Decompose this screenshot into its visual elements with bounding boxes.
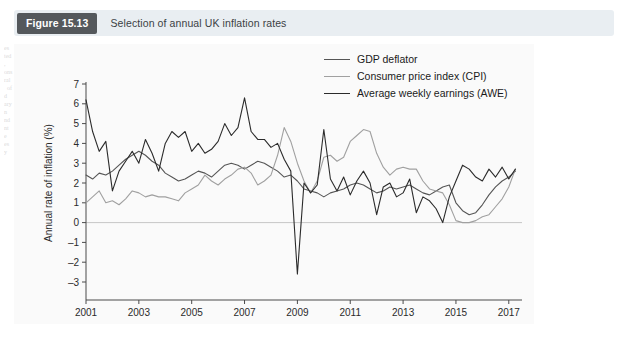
chart-panel: –3–2–10123456720012003200520072009201120… (14, 44, 614, 324)
svg-text:2011: 2011 (339, 307, 361, 318)
figure-caption-bar: Figure 15.13 Selection of annual UK infl… (14, 10, 614, 36)
svg-text:6: 6 (73, 98, 79, 109)
inflation-line-chart: –3–2–10123456720012003200520072009201120… (14, 44, 614, 324)
svg-text:2013: 2013 (392, 307, 415, 318)
svg-text:0: 0 (73, 217, 79, 228)
svg-text:2007: 2007 (233, 307, 256, 318)
svg-text:2017: 2017 (498, 307, 521, 318)
svg-text:7: 7 (73, 79, 79, 90)
svg-text:2: 2 (73, 178, 79, 189)
svg-text:5: 5 (73, 118, 79, 129)
legend-label-gdp-deflator: GDP deflator (357, 53, 418, 65)
figure-caption-text: Selection of annual UK inflation rates (110, 17, 286, 29)
svg-text:2005: 2005 (181, 307, 204, 318)
svg-text:2009: 2009 (286, 307, 309, 318)
legend-swatch-awe (324, 93, 350, 94)
legend-item-awe: Average weekly earnings (AWE) (324, 86, 508, 100)
svg-text:3: 3 (73, 158, 79, 169)
svg-text:Annual rate of inflation (%): Annual rate of inflation (%) (43, 124, 54, 242)
legend-item-gdp-deflator: GDP deflator (324, 52, 508, 66)
svg-text:–2: –2 (68, 257, 80, 268)
svg-text:2003: 2003 (128, 307, 151, 318)
legend-label-awe: Average weekly earnings (AWE) (357, 87, 508, 99)
svg-text:2001: 2001 (75, 307, 98, 318)
legend-label-cpi: Consumer price index (CPI) (357, 70, 487, 82)
legend-item-cpi: Consumer price index (CPI) (324, 69, 508, 83)
chart-legend: GDP deflator Consumer price index (CPI) … (324, 52, 508, 100)
figure-container: es ted , ons ral of d ary n nd nt e es y… (0, 0, 634, 338)
svg-text:1: 1 (73, 197, 79, 208)
svg-text:4: 4 (73, 138, 79, 149)
figure-number-tag: Figure 15.13 (17, 13, 97, 34)
svg-text:2015: 2015 (445, 307, 468, 318)
svg-text:–1: –1 (68, 237, 80, 248)
svg-text:–3: –3 (68, 277, 80, 288)
legend-swatch-cpi (324, 76, 350, 77)
legend-swatch-gdp-deflator (324, 59, 350, 60)
